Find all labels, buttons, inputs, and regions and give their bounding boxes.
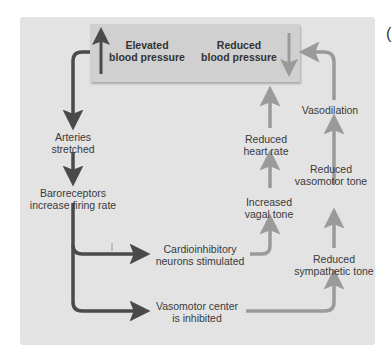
increased-vagal-tone-node: Increased vagal tone (245, 196, 293, 220)
vasomotor-center-node: Vasomotor center is inhibited (156, 300, 238, 324)
node-line1: Vasodilation (302, 104, 358, 116)
reduced-vasomotor-tone-node: Reduced vasomotor tone (295, 163, 367, 187)
elevated-bp-line2: blood pressure (109, 51, 185, 63)
node-line2: neurons stimulated (156, 255, 245, 267)
node-line1: Baroreceptors (30, 187, 116, 199)
vasodilation-node: Vasodilation (302, 104, 358, 116)
node-line1: Arteries (51, 131, 94, 143)
node-line2: stretched (51, 143, 94, 155)
reduced-bp-line1: Reduced (201, 39, 277, 51)
node-line2: heart rate (244, 145, 289, 157)
node-line2: vagal tone (245, 208, 293, 220)
node-line1: Reduced (244, 133, 289, 145)
node-line1: Vasomotor center (156, 300, 238, 312)
node-line1: Reduced (295, 163, 367, 175)
reduced-sympathetic-tone-node: Reduced sympathetic tone (294, 253, 373, 277)
cardioinhibitory-node: Cardioinhibitory neurons stimulated (156, 243, 245, 267)
reduced-bp-line2: blood pressure (201, 51, 277, 63)
elevated-bp-line1: Elevated (109, 39, 185, 51)
node-line2: vasomotor tone (295, 175, 367, 187)
clipped-edge-glyph: ( (386, 26, 391, 42)
reduced-bp-label: Reduced blood pressure (201, 39, 277, 63)
elevated-bp-label: Elevated blood pressure (109, 39, 185, 63)
node-line2: sympathetic tone (294, 265, 373, 277)
node-line1: Cardioinhibitory (156, 243, 245, 255)
node-line2: is inhibited (156, 312, 238, 324)
arteries-stretched-node: Arteries stretched (51, 131, 94, 155)
node-line1: Reduced (294, 253, 373, 265)
reduced-heart-rate-node: Reduced heart rate (244, 133, 289, 157)
node-line2: increase firing rate (30, 199, 116, 211)
node-line1: Increased (245, 196, 293, 208)
baroreceptors-node: Baroreceptors increase firing rate (30, 187, 116, 211)
